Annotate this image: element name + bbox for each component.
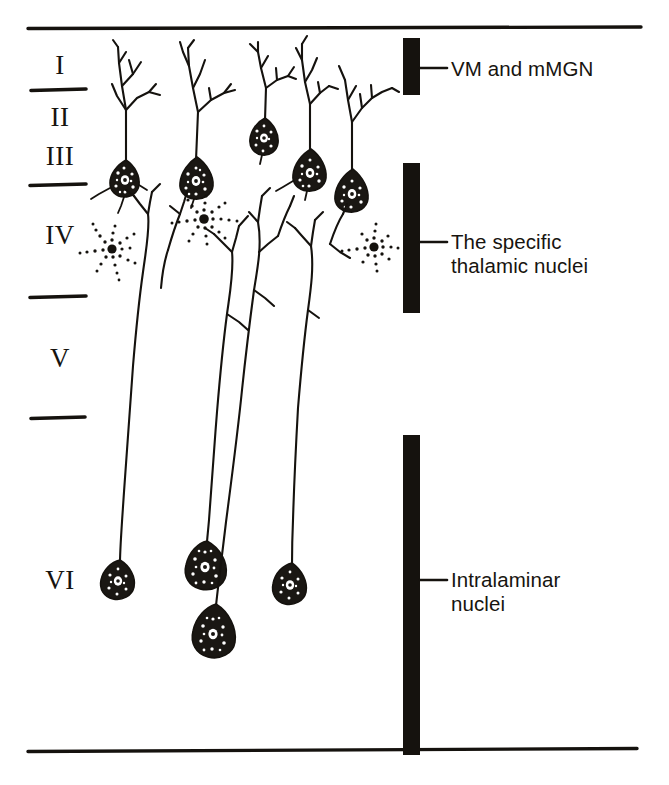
- stellate-neuron-2: [171, 195, 239, 246]
- stellate-neuron-3: [341, 223, 400, 273]
- cortical-lamination-figure: I II III IV V VI VM and mMGN The specifi…: [0, 0, 669, 785]
- afferent-bar-intralaminar: [403, 435, 447, 755]
- layer-label-i: I: [30, 52, 90, 79]
- label-intralaminar-nuclei: Intralaminar nuclei: [451, 568, 560, 616]
- pyramidal-soma-5: [335, 169, 368, 212]
- pyramidal-soma-3: [250, 118, 278, 164]
- layer-label-iii: III: [30, 143, 90, 170]
- pyramidal-neuron-4: [296, 36, 338, 152]
- afferent-bar-specific-thalamic: [403, 163, 447, 313]
- layer6-neuron-4: [273, 212, 323, 604]
- label-vm-and-mmgn: VM and mMGN: [451, 57, 593, 81]
- pyramidal-soma-4: [276, 149, 326, 200]
- pyramidal-neuron-5: [339, 66, 399, 172]
- layer-label-iv: IV: [30, 222, 90, 249]
- layer-label-ii: II: [30, 104, 90, 131]
- label-specific-thalamic-nuclei: The specific thalamic nuclei: [451, 230, 588, 278]
- neuron-drawing: [0, 0, 669, 785]
- frame-top-rule: [28, 27, 641, 29]
- layer-label-vi: VI: [30, 567, 90, 594]
- frame-bottom-rule: [28, 749, 637, 752]
- layer6-neuron-2: [185, 216, 248, 590]
- pyramidal-neuron-2: [180, 40, 235, 160]
- afferent-bar-vm-mmgn: [403, 38, 447, 95]
- pyramidal-soma-1: [91, 160, 147, 213]
- pyramidal-neuron-1: [112, 40, 160, 163]
- pyramidal-neuron-3: [250, 42, 296, 120]
- layer-label-v: V: [30, 345, 90, 372]
